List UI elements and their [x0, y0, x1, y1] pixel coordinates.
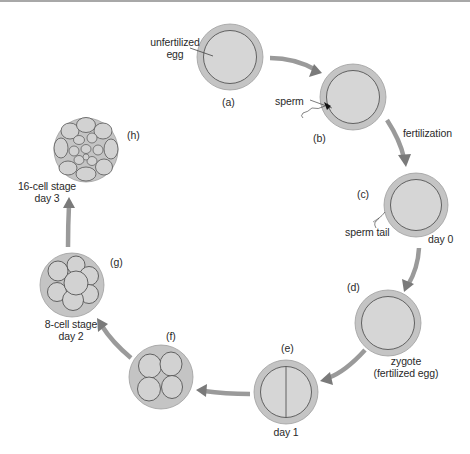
label-zygote: zygote (fertilized egg) [365, 355, 447, 379]
label-16-cell-stage: 16-cell stage day 3 [14, 180, 80, 204]
arrow-e-to-f [196, 384, 250, 397]
arrow-c-to-d [402, 248, 419, 292]
embryo-e-2-cell [254, 360, 318, 424]
label-line: day 2 [35, 330, 107, 342]
arrow-a-to-b [270, 58, 322, 77]
label-day-1: day 1 [266, 426, 306, 438]
arrow-g-to-h [63, 197, 75, 247]
tag-a: (a) [222, 96, 235, 108]
embryo-h-16-cell [54, 118, 118, 183]
label-line: unfertilized [146, 36, 204, 48]
label-line: 8-cell stage [35, 318, 107, 330]
arrow-d-to-e [320, 350, 365, 385]
tag-c: (c) [357, 188, 369, 200]
label-line: day 3 [14, 192, 80, 204]
label-line: (fertilized egg) [365, 367, 447, 379]
label-line: zygote [365, 355, 447, 367]
label-8-cell-stage: 8-cell stage day 2 [35, 318, 107, 342]
tag-g: (g) [110, 256, 123, 268]
tag-b: (b) [313, 132, 326, 144]
label-line: egg [146, 48, 204, 60]
label-day-0: day 0 [428, 233, 453, 245]
embryo-g-8-cell [40, 253, 104, 317]
embryo-f-4-cell [129, 345, 193, 409]
tag-d: (d) [347, 281, 360, 293]
label-fertilization: fertilization [403, 127, 452, 139]
egg-d-zygote [355, 290, 421, 356]
tag-f: (f) [166, 330, 176, 342]
tag-e: (e) [281, 342, 294, 354]
label-unfertilized-egg: unfertilized egg [146, 36, 204, 60]
tag-h: (h) [127, 129, 140, 141]
label-line: 16-cell stage [14, 180, 80, 192]
label-sperm-tail: sperm tail [345, 226, 390, 238]
label-sperm: sperm [275, 95, 304, 107]
embryo-development-cycle [0, 0, 470, 454]
